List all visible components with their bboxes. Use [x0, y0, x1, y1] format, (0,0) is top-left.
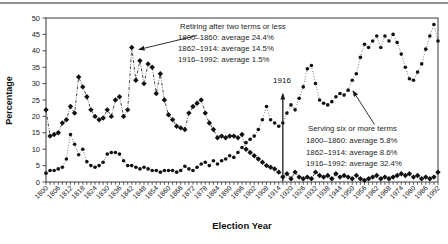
data-point: [334, 95, 338, 99]
data-point: [391, 33, 395, 37]
data-point: [412, 79, 416, 83]
data-point: [404, 65, 408, 69]
data-point: [130, 164, 134, 168]
y-tick-label: 5: [36, 161, 40, 170]
data-point: [105, 107, 110, 112]
arrow-to-serving-curve: [353, 91, 375, 125]
data-point: [97, 164, 101, 168]
data-point: [146, 167, 150, 171]
data-point: [428, 34, 432, 38]
data-point: [232, 156, 236, 160]
data-point: [318, 98, 322, 102]
data-point: [346, 88, 350, 92]
data-point: [236, 151, 240, 155]
data-point: [261, 118, 265, 122]
data-point: [330, 100, 334, 104]
data-point: [84, 94, 89, 99]
data-point: [73, 142, 77, 146]
data-point: [175, 170, 179, 174]
data-point: [239, 132, 244, 137]
data-point: [52, 169, 56, 173]
data-point: [260, 160, 265, 165]
data-point: [154, 91, 159, 96]
data-point: [167, 169, 171, 173]
y-tick-label: 25: [32, 96, 40, 105]
data-point: [240, 146, 244, 150]
data-point: [195, 165, 199, 169]
data-point: [69, 133, 73, 137]
data-point: [150, 169, 154, 173]
data-point: [61, 165, 65, 169]
data-point: [248, 138, 252, 142]
data-point: [387, 39, 391, 43]
data-point: [125, 107, 130, 112]
data-point: [89, 164, 93, 168]
data-point: [43, 107, 48, 112]
y-tick-label: 35: [32, 63, 40, 72]
data-point: [436, 39, 440, 43]
data-point: [416, 70, 420, 74]
data-point: [154, 169, 158, 173]
data-point: [338, 92, 342, 96]
data-point: [424, 47, 428, 51]
data-point: [322, 101, 326, 105]
data-point: [228, 154, 232, 158]
data-point: [129, 45, 134, 50]
data-point: [285, 111, 289, 115]
data-point: [375, 34, 379, 38]
data-point: [138, 167, 142, 171]
data-point: [101, 161, 105, 165]
data-point: [211, 127, 216, 132]
data-point: [371, 39, 375, 43]
y-tick-label: 50: [32, 14, 40, 23]
year-marker-label: 1916: [262, 76, 302, 85]
data-point: [158, 71, 163, 76]
data-point: [187, 167, 191, 171]
data-point: [203, 161, 207, 165]
data-point: [126, 164, 130, 168]
y-tick-label: 15: [32, 128, 40, 137]
data-point: [306, 67, 310, 71]
x-axis-title: Election Year: [46, 220, 438, 231]
data-point: [395, 41, 399, 45]
data-point: [121, 114, 126, 119]
data-point: [257, 128, 261, 132]
data-point: [432, 23, 436, 27]
data-point: [297, 97, 301, 101]
data-point: [142, 165, 146, 169]
data-point: [220, 159, 224, 163]
data-point: [203, 110, 208, 115]
data-point: [408, 77, 412, 81]
data-point: [379, 46, 383, 50]
data-point: [216, 162, 220, 166]
serving-legend-title: Serving six or more terms: [306, 123, 402, 135]
data-point: [76, 74, 81, 79]
x-axis: 1800180618121818182418301836184218481854…: [33, 182, 441, 200]
data-point: [159, 170, 163, 174]
y-axis-title: Percentage: [4, 55, 15, 147]
figure: 0510152025303540455018001806181218181824…: [0, 0, 448, 244]
data-point: [342, 93, 346, 97]
retiring-legend-line: 1916–1992: average 1.5%: [178, 54, 286, 65]
data-point: [114, 151, 118, 155]
data-point: [65, 157, 69, 161]
retiring-legend-title: Retiring after two terms or less: [178, 21, 286, 32]
data-point: [93, 165, 97, 169]
data-point: [310, 64, 314, 68]
data-point: [85, 160, 89, 164]
data-point: [77, 153, 81, 157]
data-point: [244, 141, 248, 145]
data-point: [48, 169, 52, 173]
data-point: [355, 72, 359, 76]
data-point: [109, 114, 114, 119]
data-point: [363, 42, 367, 46]
data-point: [383, 34, 387, 38]
data-point: [44, 171, 48, 175]
data-point: [326, 103, 330, 107]
data-point: [134, 165, 138, 169]
y-tick-label: 10: [32, 145, 40, 154]
data-point: [133, 78, 138, 83]
data-point: [293, 108, 297, 112]
data-point: [399, 52, 403, 56]
data-point: [137, 58, 142, 63]
